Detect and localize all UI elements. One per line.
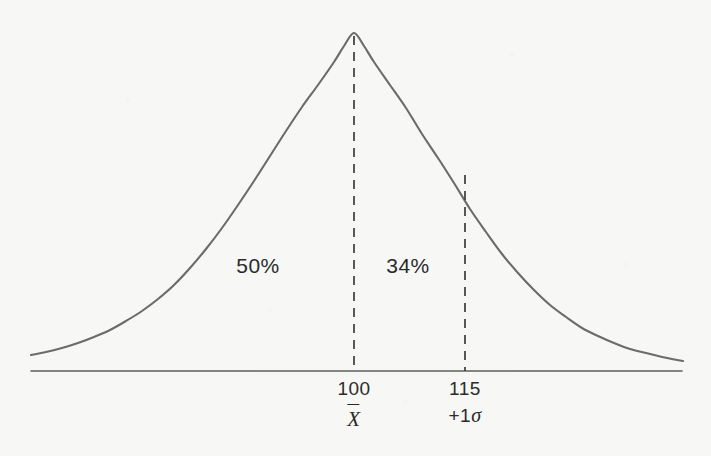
bell-curve-line <box>31 33 683 361</box>
plus-one-text: +1 <box>448 405 471 426</box>
tick-label-100: 100 <box>337 378 370 400</box>
tick-sublabel-x-bar: X <box>347 404 360 432</box>
sigma-symbol: σ <box>471 404 481 426</box>
tick-label-115: 115 <box>449 378 481 400</box>
x-bar-symbol: X <box>347 404 360 432</box>
x-bar-letter: X <box>347 404 360 432</box>
x-bar-overline <box>347 404 359 405</box>
area-label-left-of-mean: 50% <box>236 254 280 278</box>
tick-sublabel-plus-one-sigma: +1σ <box>448 404 481 427</box>
area-label-mean-to-sigma: 34% <box>386 254 430 278</box>
normal-distribution-figure: 50% 34% 100 X 115 +1σ <box>0 0 711 456</box>
